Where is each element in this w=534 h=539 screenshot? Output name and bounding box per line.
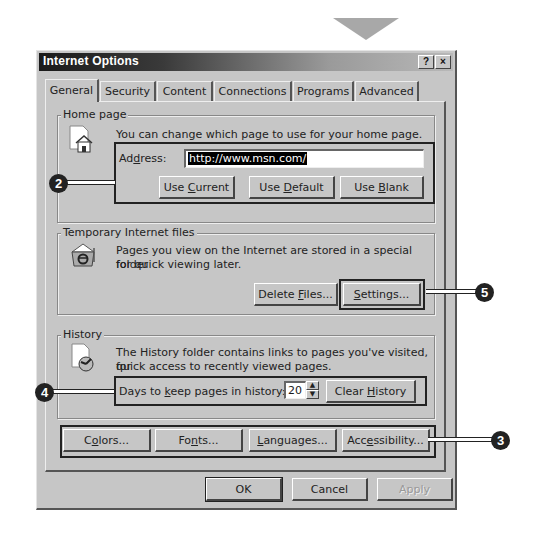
settings-button[interactable]: Settings... [343, 283, 421, 306]
history-legend: History [61, 328, 104, 341]
use-default-button[interactable]: Use Default [249, 176, 335, 199]
temp-files-icon [70, 242, 98, 268]
ok-button[interactable]: OK [206, 478, 282, 501]
days-to-keep-label: Days to keep pages in history: [119, 385, 285, 399]
spin-up-button[interactable]: ▲ [306, 381, 319, 390]
callout-5-badge: 5 [475, 283, 494, 302]
home-page-legend: Home page [61, 108, 128, 121]
general-tab-panel: Home page You can change which page to u… [45, 101, 446, 472]
callout-2-line [66, 180, 115, 185]
home-page-icon [69, 125, 95, 155]
tab-general[interactable]: General [45, 79, 99, 102]
tab-advanced[interactable]: Advanced [355, 81, 419, 101]
days-spinner[interactable]: ▲ ▼ [306, 381, 319, 399]
languages-button[interactable]: Languages... [249, 429, 337, 452]
history-icon [70, 343, 98, 373]
history-description-2: quick access to recently viewed pages. [116, 360, 332, 374]
close-button[interactable]: × [435, 55, 451, 69]
spin-down-button[interactable]: ▼ [306, 390, 319, 399]
window-title: Internet Options [43, 54, 139, 68]
home-page-description: You can change which page to use for you… [116, 128, 422, 142]
fonts-button[interactable]: Fonts... [155, 429, 243, 452]
use-current-button[interactable]: Use Current [159, 176, 235, 199]
help-button[interactable]: ? [418, 55, 434, 69]
pointer-arrow-icon [333, 18, 399, 40]
colors-button[interactable]: Colors... [63, 429, 151, 452]
temp-files-legend: Temporary Internet files [61, 226, 197, 239]
tab-connections[interactable]: Connections [214, 81, 292, 101]
accessibility-button[interactable]: Accessibility... [342, 429, 430, 452]
internet-options-dialog: Internet Options ? × General Security Co… [36, 50, 457, 510]
callout-4-badge: 4 [35, 383, 54, 402]
use-blank-button[interactable]: Use Blank [340, 176, 424, 199]
delete-files-button[interactable]: Delete Files... [254, 283, 338, 306]
days-to-keep-input[interactable]: 20 [284, 381, 306, 399]
title-bar: Internet Options ? × [39, 53, 453, 71]
callout-3-line [428, 437, 493, 442]
tab-content[interactable]: Content [157, 81, 213, 101]
callout-3-badge: 3 [491, 431, 510, 450]
address-label: Address: [119, 152, 167, 166]
apply-button[interactable]: Apply [377, 478, 453, 501]
tab-security[interactable]: Security [100, 81, 156, 101]
clear-history-button[interactable]: Clear History [326, 380, 416, 403]
callout-5-line [426, 289, 478, 294]
temp-files-description-2: for quick viewing later. [116, 258, 241, 272]
address-value: http://www.msn.com/ [188, 152, 307, 165]
callout-2-badge: 2 [49, 174, 68, 193]
address-input[interactable]: http://www.msn.com/ [184, 149, 424, 168]
tab-programs[interactable]: Programs [293, 81, 354, 101]
cancel-button[interactable]: Cancel [292, 478, 368, 501]
callout-4-line [52, 389, 114, 394]
